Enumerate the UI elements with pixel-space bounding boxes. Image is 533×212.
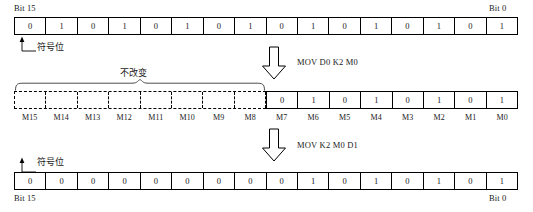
bit-array-lower-cell-4: 0: [393, 92, 424, 108]
bit-array-label-0: M15: [14, 112, 46, 124]
source-bit-cell-14: 0: [455, 18, 486, 34]
bit-array-lower-cell-0: 0: [267, 92, 298, 108]
source-bit-cell-12: 0: [392, 18, 423, 34]
source-bit-cell-10: 0: [329, 18, 360, 34]
source-bit-cell-2: 0: [78, 18, 109, 34]
dest-bit-cell-0: 0: [15, 173, 46, 189]
source-register-row: 0101010101010101: [14, 17, 518, 35]
source-bit-cell-15: 1: [487, 18, 517, 34]
dest-bit-cell-2: 0: [78, 173, 109, 189]
dest-bit-cell-9: 1: [298, 173, 329, 189]
bit-array-upper-cell-4: [141, 92, 172, 108]
source-bit-cell-11: 1: [361, 18, 392, 34]
bit-array-label-4: M11: [140, 112, 172, 124]
source-bit-cell-1: 1: [46, 18, 77, 34]
dest-bit-cell-8: 0: [267, 173, 298, 189]
bit-array-label-1: M14: [46, 112, 78, 124]
bit-array-upper-cell-1: [46, 92, 77, 108]
bit-array-labels-row: M15M14M13M12M11M10M9M8M7M6M5M4M3M2M1M0: [14, 112, 518, 124]
dest-bit-cell-13: 1: [424, 173, 455, 189]
bit-array-label-6: M9: [203, 112, 235, 124]
bit-array-lower-cell-1: 1: [298, 92, 329, 108]
block-arrow-down-icon-1: [261, 46, 287, 80]
bit-array-label-15: M0: [487, 112, 519, 124]
bit-array-label-7: M8: [235, 112, 267, 124]
top-bit0-label: Bit 0: [489, 3, 506, 13]
bit-transfer-diagram: Bit 15 Bit 0 0101010101010101 符号位 不改变 01…: [0, 0, 533, 212]
bit-array-label-8: M7: [266, 112, 298, 124]
unchanged-brace: [14, 79, 266, 91]
source-bit-cell-7: 1: [235, 18, 266, 34]
source-bit-cell-3: 1: [109, 18, 140, 34]
dest-bit-cell-1: 0: [46, 173, 77, 189]
bit-array-upper-cell-6: [203, 92, 234, 108]
bit-array-lower-cell-7: 1: [487, 92, 517, 108]
bit-array-label-12: M3: [392, 112, 424, 124]
dest-bit-cell-6: 0: [204, 173, 235, 189]
top-bit15-label: Bit 15: [14, 3, 36, 13]
source-bit-cell-9: 1: [298, 18, 329, 34]
bit-array-label-3: M12: [109, 112, 141, 124]
bit-array-label-5: M10: [172, 112, 204, 124]
destination-register-row: 0000000001010101: [14, 172, 518, 190]
dest-bit-cell-14: 0: [455, 173, 486, 189]
bit-array-lower-cell-5: 1: [424, 92, 455, 108]
bit-array-lower-cell-2: 0: [330, 92, 361, 108]
bit-array-lower-cell-3: 1: [361, 92, 392, 108]
block-arrow-down-icon-2: [261, 128, 287, 162]
bit-array-upper-cell-3: [109, 92, 140, 108]
dest-bit-cell-15: 1: [487, 173, 517, 189]
bit-array-upper-cell-2: [78, 92, 109, 108]
sign-bit-label-top: 符号位: [37, 42, 64, 52]
dest-bit-cell-7: 0: [235, 173, 266, 189]
dest-bit-cell-12: 0: [392, 173, 423, 189]
source-bit-cell-6: 0: [204, 18, 235, 34]
unchanged-label: 不改变: [120, 68, 147, 78]
source-bit-cell-0: 0: [15, 18, 46, 34]
bit-array-upper-half: [14, 91, 266, 109]
instruction-label-1: MOV D0 K2 M0: [297, 57, 358, 67]
source-bit-cell-4: 0: [141, 18, 172, 34]
bit-array-upper-cell-0: [15, 92, 46, 108]
instruction-label-2: MOV K2 M0 D1: [297, 140, 358, 150]
bit-array-upper-cell-5: [172, 92, 203, 108]
bit-array-label-9: M6: [298, 112, 330, 124]
bit-array-upper-cell-7: [235, 92, 266, 108]
bit-array-label-2: M13: [77, 112, 109, 124]
bit-array-label-10: M5: [329, 112, 361, 124]
bit-array-label-11: M4: [361, 112, 393, 124]
bottom-bit15-label: Bit 15: [14, 193, 36, 203]
dest-bit-cell-3: 0: [109, 173, 140, 189]
dest-bit-cell-5: 0: [172, 173, 203, 189]
sign-bit-label-bottom: 符号位: [37, 157, 64, 167]
source-bit-cell-13: 1: [424, 18, 455, 34]
bit-array-row: 01010101: [14, 91, 518, 109]
source-bit-cell-8: 0: [267, 18, 298, 34]
dest-bit-cell-10: 0: [329, 173, 360, 189]
bit-array-label-14: M1: [455, 112, 487, 124]
bit-array-label-13: M2: [424, 112, 456, 124]
bit-array-lower-half: 01010101: [266, 91, 518, 109]
bit-array-lower-cell-6: 0: [455, 92, 486, 108]
bottom-bit0-label: Bit 0: [489, 193, 506, 203]
source-bit-cell-5: 1: [172, 18, 203, 34]
dest-bit-cell-4: 0: [141, 173, 172, 189]
dest-bit-cell-11: 1: [361, 173, 392, 189]
